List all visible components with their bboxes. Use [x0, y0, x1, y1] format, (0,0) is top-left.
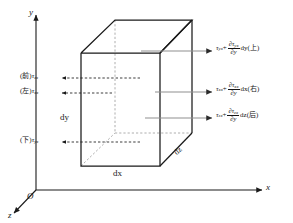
- stress-label-top-face: τyx + ∂τyx ∂y dy(上): [216, 41, 259, 56]
- partial-fraction-back: ∂τzx ∂y: [227, 108, 239, 123]
- stress-label-back-face: τzx + ∂τzx ∂y dz(后): [216, 108, 258, 123]
- face-name-right: (右): [248, 86, 260, 93]
- tau-subscript-right: xx: [219, 88, 223, 93]
- y-axis-label: y: [29, 8, 33, 17]
- x-axis-label: x: [266, 183, 270, 192]
- face-name-front: (前): [20, 72, 32, 80]
- stress-label-front-face: (前)τzx: [20, 73, 38, 80]
- tau-subscript-bottom: yx: [34, 139, 38, 144]
- numerator-subscript-back: zx: [234, 110, 238, 115]
- partial-fraction-right: ∂τxx ∂y: [228, 82, 240, 97]
- denominator-right: ∂y: [231, 89, 237, 96]
- plus-sign-back: +: [223, 112, 227, 119]
- partial-fraction-top: ∂τyx ∂y: [228, 41, 240, 56]
- face-name-left: (左): [20, 87, 32, 95]
- face-name-back: (后): [247, 112, 259, 119]
- face-name-top: (上): [248, 45, 260, 52]
- right-stress-arrows: [141, 51, 212, 118]
- denominator-back: ∂y: [230, 115, 236, 122]
- dy-dimension-label: dy: [60, 113, 69, 122]
- differential-back: dz: [240, 112, 247, 119]
- numerator-subscript-right: xx: [234, 84, 238, 89]
- z-axis-label: z: [8, 211, 12, 220]
- diagram-canvas: y x z O dy dx dz τyx + ∂τyx ∂y dy(上) τxx…: [0, 0, 293, 223]
- tau-subscript-front: zx: [34, 75, 38, 80]
- denominator-top: ∂y: [231, 48, 237, 55]
- dx-dimension-label: dx: [113, 169, 122, 178]
- tau-subscript-top: yx: [219, 47, 223, 52]
- differential-top: dy: [241, 45, 248, 52]
- tau-subscript-left: xx: [34, 90, 38, 95]
- numerator-subscript-top: yx: [234, 43, 238, 48]
- tau-subscript-back: zx: [219, 114, 223, 119]
- stress-label-left-face: (左)τxx: [20, 88, 38, 95]
- differential-right: dx: [241, 86, 248, 93]
- plus-sign-right: +: [223, 86, 227, 93]
- plus-sign-top: +: [223, 45, 227, 52]
- stress-label-right-face: τxx + ∂τxx ∂y dx(右): [216, 82, 259, 97]
- stress-label-bottom-face: (下)τyx: [20, 137, 38, 144]
- face-name-bottom: (下): [20, 136, 32, 144]
- origin-label: O: [27, 192, 34, 201]
- left-stress-arrows: [62, 78, 140, 142]
